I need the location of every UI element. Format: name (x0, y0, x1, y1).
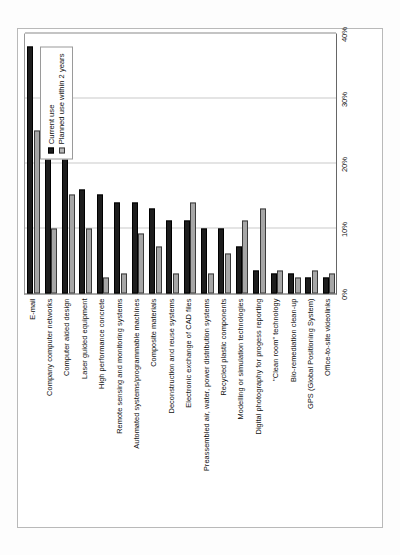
category-axis-labels: E-mailCompany computer networksComputer … (24, 294, 337, 526)
bar-current-use (62, 144, 68, 294)
bar-planned-use (312, 270, 318, 293)
bar-planned-use (242, 220, 248, 293)
legend-swatch-current-use (48, 147, 54, 153)
bar-planned-use (295, 277, 301, 293)
chart-legend: Current use Planned use within 2 years (40, 46, 73, 159)
category-label: Computer aided design (62, 298, 71, 375)
category-label: Composite materials (149, 298, 158, 366)
bar-group (131, 33, 146, 293)
bar-group (78, 33, 93, 293)
bar-group (270, 33, 285, 293)
bar-current-use (166, 220, 172, 293)
bar-group (287, 33, 302, 293)
legend-label-current-use: Current use (47, 104, 56, 144)
category-label: E-mail (28, 298, 37, 319)
bar-planned-use (277, 270, 283, 293)
category-label: Remote sensing and monitoring systems (115, 298, 124, 433)
bar-group (183, 33, 198, 293)
bar-current-use (97, 194, 103, 293)
tick-label-0pct: 0% (340, 289, 349, 300)
bar-planned-use (329, 274, 335, 294)
rotated-chart-container: E-mailCompany computer networksComputer … (24, 29, 376, 526)
value-axis-ticks: 0%10%20%30%40% (338, 33, 358, 294)
bar-planned-use (190, 202, 196, 293)
category-label: Deconstruction and reuse systems (167, 298, 176, 413)
bar-group (252, 33, 267, 293)
bar-group (200, 33, 215, 293)
bar-current-use (149, 209, 155, 294)
bar-planned-use (103, 277, 109, 293)
bar-current-use (305, 277, 311, 293)
category-label: Digital photography for progess reportin… (254, 298, 263, 434)
bar-group (96, 33, 111, 293)
category-label: Recycled plastic components (219, 298, 228, 395)
bar-current-use (79, 189, 85, 293)
bar-planned-use (138, 233, 144, 293)
category-label: Automated systems/programmable machines (132, 298, 141, 448)
bar-chart: E-mailCompany computer networksComputer … (24, 29, 376, 526)
tick-label-40pct: 40% (340, 26, 349, 41)
bar-current-use (184, 220, 190, 293)
category-label: Modelling or simulation technologies (236, 298, 245, 419)
bar-current-use (27, 46, 33, 293)
legend-entry-planned-use: Planned use within 2 years (57, 53, 66, 153)
tick-label-10pct: 10% (340, 221, 349, 236)
bar-group (113, 33, 128, 293)
bar-planned-use (225, 253, 231, 293)
bar-group (148, 33, 163, 293)
tick-label-20pct: 20% (340, 156, 349, 171)
bar-current-use (132, 202, 138, 293)
bar-current-use (271, 274, 277, 294)
bar-current-use (288, 274, 294, 294)
category-label: GPS (Global Positioning System) (306, 298, 315, 408)
category-label: Electronic exchange of CAD files (184, 298, 193, 407)
legend-swatch-planned-use (59, 147, 65, 153)
bar-current-use (236, 246, 242, 293)
bar-planned-use (173, 274, 179, 294)
category-label: "Clean room" technology (271, 298, 280, 380)
tick-label-30pct: 30% (340, 91, 349, 106)
category-label: Laser guided equipment (80, 298, 89, 378)
bar-current-use (201, 228, 207, 293)
category-label: Preassembled air, water, power distribut… (202, 298, 211, 471)
bar-planned-use (69, 194, 75, 293)
category-label: Office-to-site videolinks (323, 298, 332, 376)
legend-entry-current-use: Current use (47, 53, 56, 153)
bar-planned-use (86, 228, 92, 293)
bar-planned-use (51, 228, 57, 293)
bar-current-use (323, 277, 329, 293)
bar-planned-use (34, 131, 40, 294)
rotation-wrapper: E-mailCompany computer networksComputer … (0, 0, 400, 555)
bar-planned-use (208, 274, 214, 294)
bar-group (322, 33, 337, 293)
bar-current-use (218, 228, 224, 293)
bar-current-use (253, 270, 259, 293)
bar-group (26, 33, 41, 293)
category-label: High performance concrete (97, 298, 106, 388)
bar-group (304, 33, 319, 293)
bar-group (235, 33, 250, 293)
category-label: Bio-remediation clean-up (289, 298, 298, 381)
scanned-page: E-mailCompany computer networksComputer … (0, 0, 400, 555)
bar-current-use (114, 202, 120, 293)
legend-label-planned-use: Planned use within 2 years (57, 53, 66, 144)
category-label: Company computer networks (45, 298, 54, 395)
bar-planned-use (121, 274, 127, 294)
bar-planned-use (260, 209, 266, 294)
bar-group (217, 33, 232, 293)
bar-planned-use (156, 246, 162, 293)
bar-group (165, 33, 180, 293)
